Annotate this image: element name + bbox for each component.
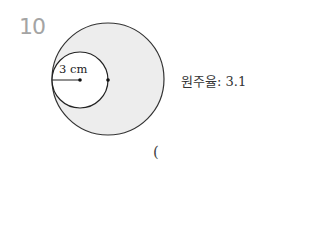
pi-label: 원주율: 3.1 [181, 71, 246, 90]
radius-label: 3 cm [59, 62, 87, 76]
small-center-dot [78, 78, 82, 82]
big-center-dot [106, 78, 110, 82]
answer-paren[interactable]: ( [153, 143, 159, 161]
